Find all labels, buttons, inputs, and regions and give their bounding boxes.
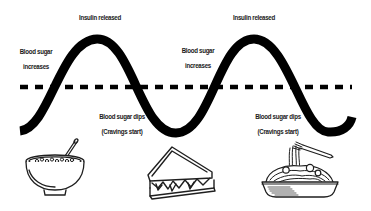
rise-label-2: Blood sugar increases (182, 43, 215, 73)
peak-label-2: Insulin released (233, 10, 275, 25)
spaghetti-plate-icon (262, 142, 338, 197)
sandwich-icon (148, 147, 215, 199)
cereal-bowl-icon (26, 138, 84, 195)
dip-label-line2: (Cravings start) (255, 124, 301, 139)
peak-label-1: Insulin released (79, 10, 121, 25)
rise-label-line2: increases (20, 59, 53, 74)
dip-label-line1: Blood sugar dips (99, 109, 145, 124)
blood-sugar-diagram: Insulin released Insulin released Blood … (0, 0, 371, 211)
peak-label-text: Insulin released (79, 10, 121, 25)
rise-label-line2: increases (182, 58, 215, 73)
rise-label-line1: Blood sugar (20, 44, 53, 59)
rise-label-line1: Blood sugar (182, 43, 215, 58)
dip-label-2: Blood sugar dips (Cravings start) (255, 109, 301, 139)
dip-label-1: Blood sugar dips (Cravings start) (99, 109, 145, 139)
peak-label-text: Insulin released (233, 10, 275, 25)
rise-label-1: Blood sugar increases (20, 44, 53, 74)
dip-label-line1: Blood sugar dips (255, 109, 301, 124)
dip-label-line2: (Cravings start) (99, 124, 145, 139)
diagram-canvas (0, 0, 371, 211)
